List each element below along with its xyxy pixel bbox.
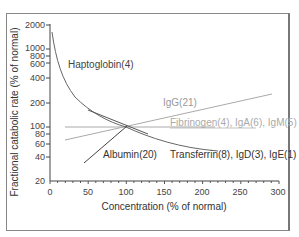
y-tick-60: 60 bbox=[35, 139, 45, 149]
y-tick-200: 200 bbox=[30, 98, 45, 108]
x-tick-250: 250 bbox=[232, 187, 247, 197]
series-haptoglobin-curve bbox=[52, 32, 218, 151]
y-ticks bbox=[46, 25, 50, 157]
y-tick-20: 20 bbox=[35, 176, 45, 186]
chart-plot: 2000 1000 800 600 400 200 100 80 60 40 2… bbox=[0, 0, 299, 237]
x-tick-200: 200 bbox=[194, 187, 209, 197]
x-tick-0: 0 bbox=[47, 187, 52, 197]
y-tick-2000: 2000 bbox=[25, 20, 45, 30]
y-tick-400: 400 bbox=[30, 73, 45, 83]
y-tick-600: 600 bbox=[30, 59, 45, 69]
label-igg: IgG(21) bbox=[163, 97, 197, 108]
label-transferrin: Transferrin(8), IgD(3), IgE(1) bbox=[170, 149, 296, 160]
y-tick-labels: 2000 1000 800 600 400 200 100 80 60 40 2… bbox=[25, 20, 45, 186]
y-axis-title: Fractional catabolic rate (% of normal) bbox=[9, 28, 20, 197]
label-haptoglobin: Haptoglobin(4) bbox=[68, 59, 134, 70]
label-albumin: Albumin(20) bbox=[103, 149, 157, 160]
y-tick-80: 80 bbox=[35, 129, 45, 139]
x-tick-50: 50 bbox=[83, 187, 93, 197]
label-fibrinogen: Fibrinogen(4), IgA(6), IgM(5) bbox=[170, 117, 297, 128]
x-tick-labels: 0 50 100 150 200 250 300 bbox=[47, 187, 285, 197]
series-transferrin-line bbox=[88, 110, 148, 134]
y-tick-40: 40 bbox=[35, 152, 45, 162]
x-tick-150: 150 bbox=[156, 187, 171, 197]
x-tick-300: 300 bbox=[270, 187, 285, 197]
x-axis-title: Concentration (% of normal) bbox=[101, 201, 226, 212]
x-tick-100: 100 bbox=[118, 187, 133, 197]
